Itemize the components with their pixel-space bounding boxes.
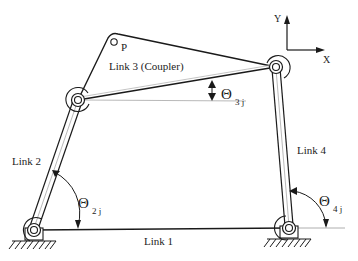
link3-label: Link 3 (Coupler) bbox=[109, 60, 184, 73]
arrowhead-icon bbox=[75, 220, 81, 229]
y-axis-arrow-icon bbox=[284, 15, 290, 24]
link-4 bbox=[272, 68, 293, 226]
four-bar-linkage-diagram: Y X bbox=[0, 0, 358, 261]
theta4-subscript: 4 j bbox=[333, 204, 342, 214]
ground-pivot-link4 bbox=[264, 216, 311, 247]
x-axis-arrow-icon bbox=[316, 47, 325, 53]
point-p-marker bbox=[111, 39, 117, 45]
theta2-angle-arc bbox=[52, 170, 81, 229]
x-axis-label: X bbox=[323, 54, 331, 65]
theta2-label: Θ 2 j bbox=[78, 195, 101, 216]
link2-label: Link 2 bbox=[12, 155, 41, 167]
theta3-label: Θ 3 j bbox=[221, 86, 244, 107]
joint-link2-link3 bbox=[66, 87, 89, 111]
theta3-subscript: 3 j bbox=[235, 97, 244, 107]
y-axis-label: Y bbox=[274, 13, 281, 24]
point-p-label: P bbox=[121, 41, 127, 53]
arrowhead-icon bbox=[208, 93, 216, 101]
coordinate-axes: Y X bbox=[274, 13, 331, 65]
theta4-symbol: Θ bbox=[319, 193, 330, 209]
arrowhead-icon bbox=[323, 219, 329, 228]
ground-hatch-icon bbox=[9, 241, 56, 249]
theta4-label: Θ 4 j bbox=[319, 193, 342, 214]
theta3-angle-indicator bbox=[208, 80, 216, 101]
link1-label: Link 1 bbox=[144, 235, 173, 247]
theta2-subscript: 2 j bbox=[92, 206, 101, 216]
link4-label: Link 4 bbox=[297, 144, 327, 156]
ground-pivot-link2 bbox=[9, 217, 56, 249]
joint-link3-link4 bbox=[267, 56, 290, 78]
ground-hatch-icon bbox=[264, 239, 311, 247]
theta3-symbol: Θ bbox=[221, 86, 232, 102]
theta2-symbol: Θ bbox=[78, 195, 89, 211]
